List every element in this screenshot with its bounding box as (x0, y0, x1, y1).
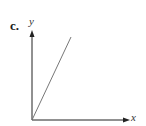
x-axis-arrow-icon (123, 118, 130, 123)
plot-area (0, 0, 146, 126)
data-line (32, 37, 71, 120)
y-axis-arrow-icon (30, 30, 35, 37)
